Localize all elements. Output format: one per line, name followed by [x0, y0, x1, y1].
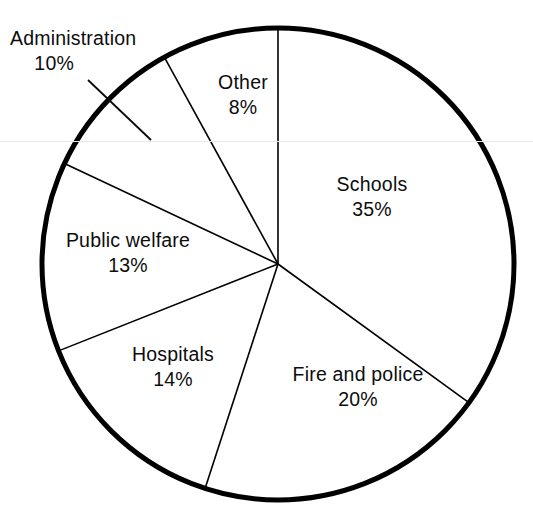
slice-label-administration-name: Administration	[10, 26, 136, 51]
slice-label-administration: Administration 10%	[10, 26, 136, 76]
slice-label-public-welfare-value: 13%	[58, 253, 198, 278]
slice-label-fire-and-police-name: Fire and police	[284, 362, 432, 387]
slice-label-administration-value: 10%	[10, 51, 136, 76]
scan-artifact-line	[0, 141, 533, 142]
slice-label-public-welfare-name: Public welfare	[58, 228, 198, 253]
slice-label-other: Other 8%	[200, 70, 286, 120]
slice-label-hospitals: Hospitals 14%	[122, 342, 224, 392]
slice-label-schools-value: 35%	[326, 197, 418, 222]
slice-label-other-value: 8%	[200, 95, 286, 120]
slice-label-schools-name: Schools	[326, 172, 418, 197]
slice-label-fire-and-police-value: 20%	[284, 387, 432, 412]
pie-chart-figure: Administration 10% Other 8% Schools 35% …	[0, 0, 533, 518]
slice-label-fire-and-police: Fire and police 20%	[284, 362, 432, 412]
slice-label-hospitals-name: Hospitals	[122, 342, 224, 367]
slice-label-hospitals-value: 14%	[122, 367, 224, 392]
slice-label-other-name: Other	[200, 70, 286, 95]
slice-label-schools: Schools 35%	[326, 172, 418, 222]
slice-label-public-welfare: Public welfare 13%	[58, 228, 198, 278]
